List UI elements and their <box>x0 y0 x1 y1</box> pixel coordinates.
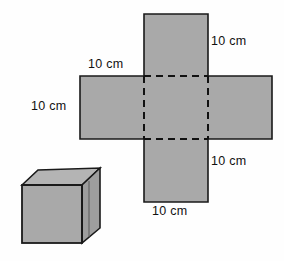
label-bottom-right: 10 cm <box>211 155 247 168</box>
label-top-left: 10 cm <box>88 58 124 71</box>
label-top-right: 10 cm <box>211 35 247 48</box>
label-left: 10 cm <box>31 100 67 113</box>
label-bottom: 10 cm <box>152 205 188 218</box>
cube-drawing <box>22 168 100 243</box>
geometry-figure: 10 cm 10 cm 10 cm 10 cm 10 cm <box>0 0 284 261</box>
cube-front-face <box>22 185 82 243</box>
